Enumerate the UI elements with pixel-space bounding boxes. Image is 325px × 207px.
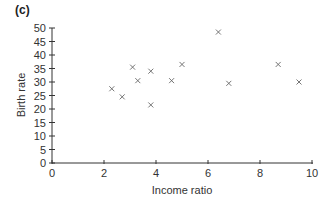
x-marker-icon	[148, 69, 153, 74]
y-tick-label: 5	[40, 144, 46, 156]
x-tick-label: 10	[306, 167, 318, 179]
panel-label: (c)	[15, 3, 30, 17]
y-tick-label: 25	[34, 90, 46, 102]
x-marker-icon	[297, 80, 302, 85]
y-tick-label: 15	[34, 117, 46, 129]
x-tick-label: 4	[153, 167, 159, 179]
x-tick-label: 8	[257, 167, 263, 179]
y-tick-label: 0	[40, 157, 46, 169]
x-marker-icon	[216, 30, 221, 35]
x-axis-label: Income ratio	[152, 184, 213, 196]
y-tick-label: 10	[34, 130, 46, 142]
x-marker-icon	[169, 78, 174, 83]
y-tick-label: 40	[34, 49, 46, 61]
y-axis-label: Birth rate	[15, 73, 27, 118]
y-tick-label: 30	[34, 76, 46, 88]
x-tick-label: 2	[101, 167, 107, 179]
plot-area: 024681005101520253035404550 Income ratio…	[0, 0, 325, 207]
x-tick-label: 0	[49, 167, 55, 179]
y-tick-label: 35	[34, 63, 46, 75]
y-tick-label: 50	[34, 22, 46, 34]
y-tick-label: 20	[34, 103, 46, 115]
x-marker-icon	[148, 102, 153, 107]
x-marker-icon	[120, 94, 125, 99]
y-tick-label: 45	[34, 36, 46, 48]
scatter-chart: (c) 024681005101520253035404550 Income r…	[0, 0, 325, 207]
x-tick-label: 6	[205, 167, 211, 179]
axes: 024681005101520253035404550	[34, 22, 318, 179]
x-marker-icon	[109, 86, 114, 91]
x-marker-icon	[130, 65, 135, 70]
x-marker-icon	[180, 62, 185, 67]
data-markers	[109, 30, 301, 108]
x-marker-icon	[226, 81, 231, 86]
x-marker-icon	[135, 78, 140, 83]
x-marker-icon	[276, 62, 281, 67]
